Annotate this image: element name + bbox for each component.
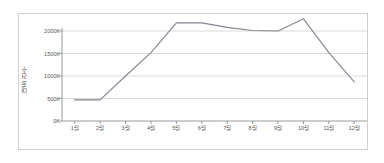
x-axis-tick-label: 11월 [316,125,342,132]
x-axis-tick-label: 6월 [189,125,215,132]
x-axis-tick-label: 7월 [214,125,240,132]
x-axis-tick-label: 12월 [341,125,367,132]
x-axis-tick-label: 2월 [87,125,113,132]
x-axis-tick-label: 10월 [290,125,316,132]
x-axis-tick-label: 9월 [265,125,291,132]
chart-container: 대출 건수 0K500K1000K1500K2000K 1월2월3월4월5월6월… [0,0,384,163]
x-axis-tick-label: 1월 [62,125,88,132]
x-axis-labels: 1월2월3월4월5월6월7월8월9월10월11월12월 [0,0,384,163]
x-axis-tick-label: 3월 [113,125,139,132]
x-axis-tick-label: 5월 [163,125,189,132]
x-axis-tick-label: 4월 [138,125,164,132]
x-axis-tick-label: 8월 [240,125,266,132]
